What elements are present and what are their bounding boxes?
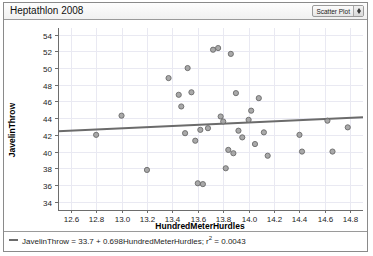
data-point <box>297 132 302 137</box>
y-tick-label: 40 <box>43 149 52 158</box>
data-point <box>94 132 99 137</box>
data-point <box>246 117 251 122</box>
data-point <box>144 167 149 172</box>
data-point <box>252 141 257 146</box>
x-tick-label: 12.6 <box>64 215 80 224</box>
data-point <box>325 118 330 123</box>
data-point <box>330 149 335 154</box>
data-point <box>205 126 210 131</box>
regression-equation-suffix: = 0.0043 <box>212 237 246 246</box>
data-point <box>176 92 181 97</box>
y-tick-label: 36 <box>43 182 52 191</box>
data-point <box>249 108 254 113</box>
y-tick-label: 54 <box>43 32 52 41</box>
page-title: Heptathlon 2008 <box>10 5 83 16</box>
legend-entry: JavelinThrow = 33.7 + 0.698HundredMeterH… <box>9 235 246 246</box>
data-point <box>299 149 304 154</box>
data-point <box>228 51 233 56</box>
y-tick-label: 34 <box>43 199 52 208</box>
data-point <box>236 128 241 133</box>
x-tick-label: 14.6 <box>318 215 334 224</box>
data-point <box>231 151 236 156</box>
data-point <box>221 119 226 124</box>
data-point <box>200 182 205 187</box>
y-tick-label: 46 <box>43 98 52 107</box>
y-tick-label: 42 <box>43 132 52 141</box>
data-points <box>94 45 351 186</box>
data-point <box>198 127 203 132</box>
y-axis-title: JavelinThrow <box>7 102 17 157</box>
y-axis-tick-labels: 3436384042444648505254 <box>43 32 52 208</box>
data-point <box>185 65 190 70</box>
data-point <box>193 138 198 143</box>
data-point <box>119 113 124 118</box>
data-point <box>218 114 223 119</box>
y-tick-label: 50 <box>43 65 52 74</box>
y-tick-label: 48 <box>43 82 52 91</box>
data-point <box>195 181 200 186</box>
plot-type-label: Scatter Plot <box>313 6 353 16</box>
data-point <box>233 91 238 96</box>
y-tick-label: 44 <box>43 115 52 124</box>
plot-type-stepper[interactable] <box>353 6 363 16</box>
x-tick-label: 12.8 <box>89 215 105 224</box>
data-point <box>226 147 231 152</box>
chart-window: Heptathlon 2008 Scatter Plot 12.612.813.… <box>3 2 368 252</box>
plot-type-select[interactable]: Scatter Plot <box>312 5 364 17</box>
regression-equation: JavelinThrow = 33.7 + 0.698HundredMeterH… <box>22 235 246 246</box>
x-axis-title: HundredMeterHurdles <box>155 221 245 231</box>
data-point <box>223 166 228 171</box>
x-tick-label: 13.0 <box>115 215 131 224</box>
x-tick-label: 14.4 <box>292 215 308 224</box>
data-point <box>166 75 171 80</box>
data-point <box>265 153 270 158</box>
x-tick-label: 14.8 <box>343 215 359 224</box>
data-point <box>189 90 194 95</box>
data-point <box>210 47 215 52</box>
chart-plot-area: 12.612.813.013.213.413.613.814.014.214.4… <box>4 20 367 231</box>
data-point <box>216 45 221 50</box>
chevron-down-icon[interactable] <box>357 11 361 14</box>
legend-line-swatch <box>9 239 18 241</box>
data-point <box>345 125 350 130</box>
title-bar: Heptathlon 2008 Scatter Plot <box>4 3 367 20</box>
legend-bar: JavelinThrow = 33.7 + 0.698HundredMeterH… <box>4 231 367 251</box>
x-tick-label: 13.2 <box>140 215 156 224</box>
scatter-plot-svg: 12.612.813.013.213.413.613.814.014.214.4… <box>4 20 367 231</box>
data-point <box>182 131 187 136</box>
data-point <box>261 130 266 135</box>
data-point <box>240 135 245 140</box>
y-tick-label: 52 <box>43 48 52 57</box>
data-point <box>179 104 184 109</box>
y-tick-label: 38 <box>43 165 52 174</box>
x-tick-label: 14.2 <box>267 215 283 224</box>
data-point <box>256 96 261 101</box>
regression-equation-prefix: JavelinThrow = 33.7 + 0.698HundredMeterH… <box>22 237 209 246</box>
